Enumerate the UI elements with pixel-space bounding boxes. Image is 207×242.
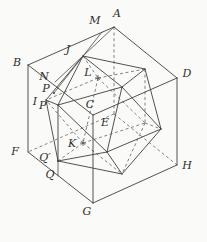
vertex-label-D: D	[182, 67, 192, 80]
cube-icosahedron-diagram: AMBJNLDPIP′CEKFQ′QHG	[0, 0, 207, 242]
vertex-label-A: A	[112, 7, 121, 20]
vertex-label-G: G	[83, 205, 92, 218]
vertex-label-P-prime: P′	[38, 99, 49, 112]
icosahedron-edge-b2-m2	[58, 161, 122, 174]
icosahedron-edge-t2-r2	[107, 87, 122, 152]
icosahedron-hidden-edge-K-I	[46, 100, 83, 143]
vertex-label-J: J	[64, 43, 71, 56]
vertex-label-H: H	[181, 159, 192, 172]
construction-segment-J-M	[83, 32, 102, 56]
vertex-label-I: I	[32, 95, 38, 108]
cube-edge-F-G	[28, 152, 93, 203]
icosahedron-edge-t2-k1	[122, 69, 145, 87]
construction-segment-J-A	[83, 27, 114, 56]
point-mark-P	[53, 92, 55, 94]
geometry-figure: AMBJNLDPIP′CEKFQ′QHG	[0, 0, 207, 242]
icosahedron-edge-b2-r1	[122, 129, 161, 174]
construction-segment-J-N	[55, 56, 83, 82]
vertex-label-B: B	[12, 56, 21, 69]
cube-hidden-edge-E-H	[114, 114, 177, 165]
construction-segment-J-P	[54, 56, 83, 93]
icosahedron-edge-m2-r2	[58, 152, 107, 161]
cube-edge-C-D	[93, 78, 177, 115]
vertex-label-M: M	[88, 14, 101, 27]
icosahedron-hidden-edge-L-I	[46, 78, 98, 100]
point-mark-m2	[57, 160, 59, 162]
vertex-label-Q-prime: Q′	[39, 151, 51, 164]
vertex-label-E: E	[100, 116, 109, 129]
vertex-label-L: L	[83, 66, 91, 79]
vertex-label-F: F	[10, 145, 19, 158]
vertex-label-C: C	[86, 98, 95, 111]
icosahedron-edge-b2-r2	[107, 152, 122, 174]
vertex-label-K: K	[67, 137, 77, 150]
vertex-label-P: P	[41, 82, 50, 95]
vertex-label-Q: Q	[45, 168, 54, 181]
icosahedron-hidden-edge-k2-b2	[122, 123, 145, 174]
